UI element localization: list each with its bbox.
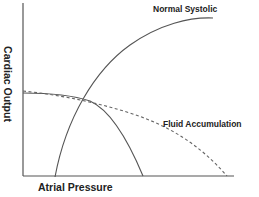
cardiac-output-chart: Normal Systolic Fluid Accumulation Atria… [0, 0, 259, 197]
normal-systolic-label: Normal Systolic [153, 5, 217, 14]
declining-solid-curve [23, 93, 143, 176]
x-axis-label: Atrial Pressure [38, 182, 113, 193]
fluid-accumulation-label: Fluid Accumulation [163, 120, 242, 129]
y-axis-label: Cardiac Output [3, 46, 14, 122]
fluid-accumulation-curve [23, 91, 227, 176]
chart-canvas [0, 0, 259, 197]
